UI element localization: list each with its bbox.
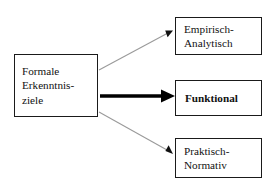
node-funktional-line-1: Funktional <box>185 91 261 105</box>
node-empirisch-analytisch-line-1: Empirisch- <box>184 22 261 36</box>
node-formale-erkenntnisziele-line-3: ziele <box>22 93 97 107</box>
edge-to-praktisch <box>99 112 173 154</box>
node-praktisch-normativ: Praktisch- Normativ <box>175 138 262 178</box>
node-formale-erkenntnisziele: Formale Erkenntnis- ziele <box>14 54 98 117</box>
node-empirisch-analytisch: Empirisch- Analytisch <box>175 17 262 55</box>
node-praktisch-normativ-line-1: Praktisch- <box>184 144 261 158</box>
edge-to-funktional <box>100 90 175 103</box>
edge-to-praktisch-arrowhead <box>165 145 173 154</box>
node-empirisch-analytisch-line-2: Analytisch <box>184 36 261 50</box>
edge-to-praktisch-shaft <box>99 112 167 150</box>
edge-to-funktional-arrowhead <box>161 90 175 103</box>
edge-to-empirisch-shaft <box>99 34 167 71</box>
node-formale-erkenntnisziele-line-2: Erkenntnis- <box>22 78 97 92</box>
diagram-canvas: Formale Erkenntnis- ziele Empirisch- Ana… <box>0 0 270 186</box>
node-formale-erkenntnisziele-line-1: Formale <box>22 64 97 78</box>
node-funktional: Funktional <box>175 80 262 116</box>
node-praktisch-normativ-line-2: Normativ <box>184 158 261 172</box>
edge-to-empirisch <box>99 31 173 71</box>
